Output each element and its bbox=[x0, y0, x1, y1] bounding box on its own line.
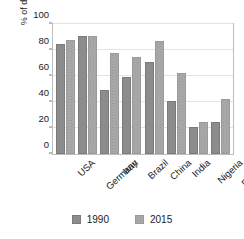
bar-iran-2015[interactable] bbox=[110, 53, 119, 154]
y-axis-tick-mark bbox=[49, 23, 52, 24]
bar-brazil-2015[interactable] bbox=[132, 57, 141, 155]
bar-nigeria-1990[interactable] bbox=[189, 127, 198, 154]
bar-usa-2015[interactable] bbox=[66, 40, 75, 154]
bar-group bbox=[210, 24, 232, 154]
legend-swatch-1990 bbox=[72, 215, 81, 224]
y-axis-tick-mark bbox=[49, 75, 52, 76]
chart-legend: 19902015 bbox=[0, 214, 244, 225]
bar-group bbox=[121, 24, 143, 154]
y-axis-ticks: 020406080100 bbox=[27, 24, 49, 154]
y-axis-tick-label: 0 bbox=[44, 140, 49, 150]
bar-india-2015[interactable] bbox=[177, 73, 186, 154]
bar-germany-1990[interactable] bbox=[78, 36, 87, 154]
legend-swatch-2015 bbox=[135, 215, 144, 224]
x-axis-labels: USAGermanyIranBrazilChinaIndiaNigeriaEth… bbox=[52, 157, 234, 205]
bar-group bbox=[99, 24, 121, 154]
y-axis-tick-label: 60 bbox=[38, 62, 49, 72]
y-axis-tick-label: 20 bbox=[38, 114, 49, 124]
bar-india-1990[interactable] bbox=[167, 101, 176, 154]
bar-ethiopia-2015[interactable] bbox=[221, 99, 230, 154]
bar-chart-figure: % of deaths from NCDs 020406080100 USAGe… bbox=[0, 0, 244, 239]
x-axis-label-brazil: Brazil bbox=[145, 157, 170, 181]
legend-item-2015[interactable]: 2015 bbox=[135, 214, 172, 225]
bar-group bbox=[188, 24, 210, 154]
bar-brazil-1990[interactable] bbox=[122, 77, 131, 154]
y-axis-tick-mark bbox=[49, 49, 52, 50]
y-axis-tick-label: 40 bbox=[38, 88, 49, 98]
y-axis-tick-mark bbox=[49, 101, 52, 102]
bar-group bbox=[76, 24, 98, 154]
bar-germany-2015[interactable] bbox=[88, 36, 97, 154]
y-axis-tick-mark bbox=[49, 153, 52, 154]
y-axis-tick-label: 80 bbox=[38, 36, 49, 46]
legend-label-2015: 2015 bbox=[150, 214, 172, 225]
y-axis-tick-mark bbox=[49, 127, 52, 128]
bar-group bbox=[54, 24, 76, 154]
legend-item-1990[interactable]: 1990 bbox=[72, 214, 109, 225]
bar-group bbox=[165, 24, 187, 154]
x-axis-label-india: India bbox=[190, 157, 213, 179]
bar-usa-1990[interactable] bbox=[56, 44, 65, 155]
legend-label-1990: 1990 bbox=[87, 214, 109, 225]
x-axis-label-usa: USA bbox=[76, 157, 98, 178]
bar-iran-1990[interactable] bbox=[100, 90, 109, 154]
bar-nigeria-2015[interactable] bbox=[199, 122, 208, 155]
y-axis-tick-label: 100 bbox=[33, 10, 49, 20]
bar-ethiopia-1990[interactable] bbox=[211, 122, 220, 155]
bar-china-2015[interactable] bbox=[155, 41, 164, 154]
plot-area: % of deaths from NCDs 020406080100 bbox=[52, 23, 234, 155]
bar-groups bbox=[53, 24, 233, 154]
bar-group bbox=[143, 24, 165, 154]
bar-china-1990[interactable] bbox=[145, 62, 154, 154]
